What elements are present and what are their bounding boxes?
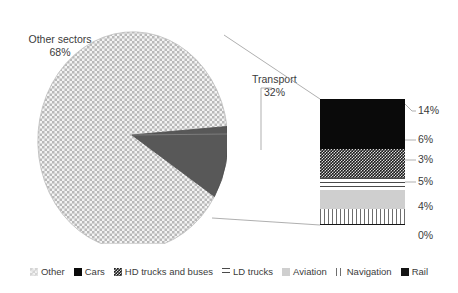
bar-value-navigation: 4%: [418, 200, 433, 212]
legend-item-other[interactable]: Other: [30, 266, 65, 277]
legend-swatch-aviation-icon: [282, 268, 290, 276]
pie-label-transport: Transport 32%: [252, 73, 332, 99]
bar-segment-rail: [320, 224, 405, 225]
legend-label-cars: Cars: [85, 266, 105, 277]
legend-label-hd-trucks-and-buses: HD trucks and buses: [125, 266, 213, 277]
legend-label-ld-trucks: LD trucks: [233, 266, 273, 277]
stacked-bar: [320, 99, 405, 225]
legend-item-navigation[interactable]: Navigation: [336, 266, 392, 277]
legend-swatch-cars-icon: [74, 268, 82, 276]
value-leader-cars: [405, 104, 416, 111]
bar-value-aviation: 5%: [418, 175, 433, 187]
pie-label-transport-value: 32%: [264, 86, 332, 99]
legend-item-ld-trucks[interactable]: LD trucks: [222, 266, 273, 277]
legend-label-aviation: Aviation: [293, 266, 327, 277]
bar-value-ld-trucks: 3%: [418, 153, 433, 165]
bar-segment-navigation: [320, 209, 405, 224]
pie-label-other-sectors: Other sectors 68%: [8, 33, 112, 59]
bar-segment-ld-trucks: [320, 178, 405, 190]
bar-value-rail: 0%: [418, 229, 433, 241]
legend-swatch-other-icon: [30, 268, 38, 276]
pie-label-other-sectors-value: 68%: [49, 46, 70, 58]
legend-label-navigation: Navigation: [347, 266, 392, 277]
bar-of-pie-chart: Other sectors 68% Transport 32% 14% 6% 3…: [0, 0, 458, 293]
bar-segment-cars: [320, 99, 405, 149]
legend-item-cars[interactable]: Cars: [74, 266, 105, 277]
bar-segment-aviation: [320, 190, 405, 209]
legend-item-aviation[interactable]: Aviation: [282, 266, 327, 277]
legend-label-rail: Rail: [412, 266, 428, 277]
legend-label-other: Other: [41, 266, 65, 277]
chart-legend: Other Cars HD trucks and buses LD trucks…: [0, 266, 458, 277]
legend-item-rail[interactable]: Rail: [401, 266, 428, 277]
legend-item-hd-trucks-and-buses[interactable]: HD trucks and buses: [114, 266, 213, 277]
legend-swatch-navigation-icon: [336, 268, 344, 276]
bar-segment-hd-trucks-and-buses: [320, 149, 405, 178]
leader-line-bottom: [212, 218, 320, 225]
pie-label-other-sectors-name: Other sectors: [28, 33, 91, 45]
bar-value-cars: 14%: [418, 104, 439, 116]
legend-swatch-rail-icon: [401, 268, 409, 276]
bar-value-hd-trucks-and-buses: 6%: [418, 133, 433, 145]
pie-label-transport-name: Transport: [252, 73, 297, 85]
legend-swatch-ld-trucks-icon: [222, 268, 230, 276]
legend-swatch-hd-trucks-and-buses-icon: [114, 268, 122, 276]
